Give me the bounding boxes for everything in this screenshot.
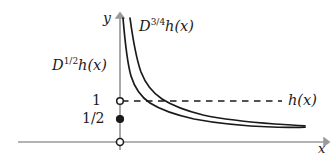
curve-d12 xyxy=(123,18,305,127)
marker-one-open-circle xyxy=(117,98,124,105)
curve-label-d34-exponent: 3/4 xyxy=(151,17,165,27)
curve-label-d12: D1/2h(x) xyxy=(52,58,107,73)
tick-label-one-half: 1/2 xyxy=(82,111,105,125)
y-axis-label: y xyxy=(103,11,111,25)
curve-label-d12-suffix: h(x) xyxy=(78,57,107,73)
curve-label-d34-suffix: h(x) xyxy=(165,18,194,34)
curve-label-d12-base: D xyxy=(52,57,64,73)
fractional-derivative-figure: y x 1 1/2 D3/4h(x) D1/2h(x) h(x) xyxy=(0,0,336,168)
x-axis-label: x xyxy=(318,142,325,155)
curve-d34 xyxy=(130,18,305,126)
curve-label-d34: D3/4h(x) xyxy=(139,19,194,34)
dashed-line-label: h(x) xyxy=(288,93,317,108)
curve-label-d34-base: D xyxy=(139,18,151,34)
tick-label-one: 1 xyxy=(92,93,101,107)
marker-origin-open-circle xyxy=(117,139,124,146)
curve-label-d12-exponent: 1/2 xyxy=(64,56,78,66)
marker-half-filled-circle xyxy=(117,116,124,123)
